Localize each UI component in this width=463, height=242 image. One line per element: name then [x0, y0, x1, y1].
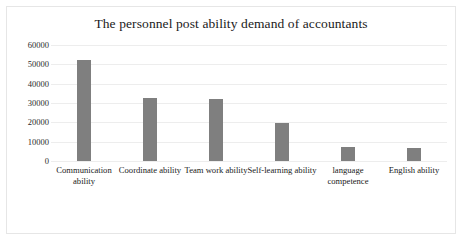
y-axis-tick-label: 60000	[7, 40, 49, 50]
x-axis-category-label: Self-learning ability	[246, 165, 318, 176]
bar	[275, 123, 289, 161]
y-axis-tick-labels: 0100002000030000400005000060000	[7, 45, 49, 161]
x-axis-category-label: Team work ability	[180, 165, 252, 176]
chart-title: The personnel post ability demand of acc…	[7, 16, 455, 32]
x-axis-category-labels: Communication abilityCoordinate abilityT…	[51, 165, 447, 205]
bar	[407, 148, 421, 161]
x-axis-category-label: Communication ability	[48, 165, 120, 187]
y-axis-tick-label: 30000	[7, 98, 49, 108]
bar-series	[51, 45, 447, 161]
bar	[341, 147, 355, 161]
y-axis-tick-label: 0	[7, 156, 49, 166]
gridline	[51, 161, 447, 162]
bar	[143, 98, 157, 161]
x-axis-category-label: English ability	[378, 165, 450, 176]
x-axis-category-label: Coordinate ability	[114, 165, 186, 176]
bar	[209, 99, 223, 161]
y-axis-tick-label: 20000	[7, 117, 49, 127]
y-axis-tick-label: 50000	[7, 59, 49, 69]
x-axis-category-label: language competence	[312, 165, 384, 187]
bar	[77, 60, 91, 161]
y-axis-tick-label: 10000	[7, 137, 49, 147]
chart-frame: The personnel post ability demand of acc…	[6, 6, 456, 234]
y-axis-tick-label: 40000	[7, 79, 49, 89]
